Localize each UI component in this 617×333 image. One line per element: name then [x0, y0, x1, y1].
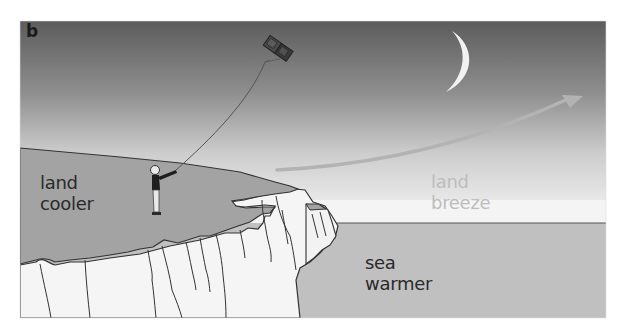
land-breeze-label: land breeze	[431, 171, 490, 213]
land-breeze-illustration	[0, 0, 617, 333]
sea-warmer-label: sea warmer	[365, 252, 432, 294]
panel-letter: b	[26, 21, 38, 41]
sea-label-line1: sea	[365, 252, 432, 273]
breeze-label-line2: breeze	[431, 192, 490, 213]
land-label-line1: land	[40, 172, 94, 193]
breeze-label-line1: land	[431, 171, 490, 192]
land-label-line2: cooler	[40, 193, 94, 214]
land-cooler-label: land cooler	[40, 172, 94, 214]
sea-label-line2: warmer	[365, 273, 432, 294]
